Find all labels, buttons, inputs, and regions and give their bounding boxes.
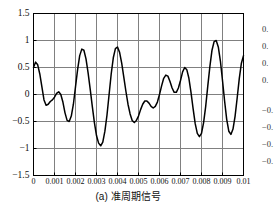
adjacent-y-tick-label: 0. xyxy=(262,75,268,85)
x-tick-label: 0.003 xyxy=(88,177,106,186)
x-tick-label: 0.008 xyxy=(193,177,211,186)
x-tick-label: 0 xyxy=(32,177,36,186)
figure-panel-a: −1.5−1−0.500.511.5 00.0010.0020.0030.004… xyxy=(0,0,280,215)
y-tick-label: 1 xyxy=(25,35,30,45)
y-tick-label: 0 xyxy=(25,89,30,99)
x-tick-label: 0.007 xyxy=(172,177,190,186)
adjacent-y-tick-label: 0. xyxy=(262,24,268,34)
adjacent-y-tick-label: −0. xyxy=(262,122,273,132)
x-tick-label: 0.004 xyxy=(109,177,127,186)
adjacent-y-tick-label: −0. xyxy=(262,156,273,166)
y-tick-label: 1.5 xyxy=(18,8,30,18)
x-tick-label: 0.006 xyxy=(151,177,169,186)
figure-caption: (a) 准周期信号 xyxy=(96,191,161,202)
y-tick-label: −1.5 xyxy=(12,170,29,180)
x-tick-label: 0.009 xyxy=(214,177,232,186)
y-tick-label: −1 xyxy=(19,143,29,153)
x-tick-label: 0.001 xyxy=(46,177,64,186)
x-tick-label: 0.005 xyxy=(130,177,148,186)
adjacent-y-tick-label: −0. xyxy=(262,139,273,149)
y-tick-label: −0.5 xyxy=(12,116,29,126)
x-tick-label: 0.01 xyxy=(237,177,251,186)
y-tick-label: 0.5 xyxy=(18,62,30,72)
quasi-periodic-signal-chart: −1.5−1−0.500.511.5 00.0010.0020.0030.004… xyxy=(0,0,280,215)
adjacent-y-tick-label: −0. xyxy=(262,105,273,115)
x-tick-label: 0.002 xyxy=(67,177,85,186)
adjacent-y-tick-label: 0. xyxy=(262,41,268,51)
adjacent-y-tick-label: 0. xyxy=(262,58,268,68)
